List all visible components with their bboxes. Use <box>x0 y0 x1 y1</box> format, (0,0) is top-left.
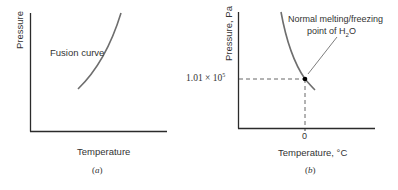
panel-b-y-tick-mantissa: 1.01 × 10 <box>186 73 222 83</box>
panel-a-y-axis-label: Pressure <box>14 11 25 49</box>
panel-b-annotation-leader <box>308 37 337 74</box>
panel-b-y-tick-label: 1.01 × 105 <box>186 73 225 83</box>
panel-b-melting-point-marker <box>303 77 308 82</box>
panel-a-axes <box>30 13 167 132</box>
annotation-line2-prefix: point of H <box>307 26 346 36</box>
panel-a-curve-label: Fusion curve <box>50 47 104 58</box>
panel-b-x-tick-label: 0 <box>302 131 307 141</box>
panel-b-caption: (b) <box>305 165 316 175</box>
panel-a-caption-letter: a <box>95 165 100 175</box>
panel-a-caption: (a) <box>92 165 103 175</box>
panel-b-y-axis-label: Pressure, Pa <box>223 6 234 61</box>
panel-b-x-axis-label: Temperature, °C <box>278 147 347 158</box>
panel-a-x-axis-label: Temperature <box>77 146 130 157</box>
panel-b-annotation-line1: Normal melting/freezing <box>288 14 383 24</box>
panel-b-annotation-line2: point of H2O <box>307 26 356 36</box>
panel-b-y-tick-exponent: 5 <box>222 72 225 78</box>
annotation-line2-suffix: O <box>349 26 356 36</box>
panel-b-caption-letter: b <box>308 165 313 175</box>
